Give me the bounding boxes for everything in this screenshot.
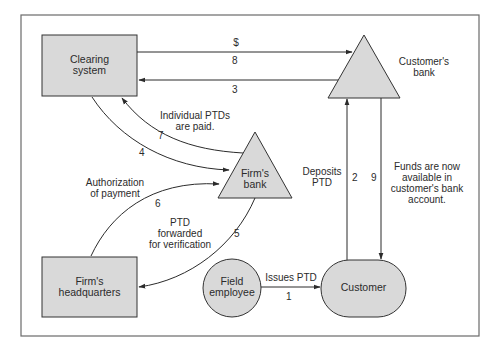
flow-7-label: Individual PTDs are paid. <box>155 110 235 132</box>
flow-9-label-line4: account. <box>384 194 470 205</box>
flow-5-label-line2: forwarded <box>145 228 215 239</box>
flow-9-step: 9 <box>371 172 377 183</box>
flow-8-label: $ <box>226 37 246 48</box>
field-employee-label: Field employee <box>202 276 262 298</box>
firms-headquarters-label: Firm's headquarters <box>42 276 137 298</box>
flow-9-label-line1: Funds are now <box>384 161 470 172</box>
flow-3-step: 3 <box>232 84 238 95</box>
customer-label: Customer <box>321 282 406 293</box>
field-employee-label-line2: employee <box>202 287 262 298</box>
flow-2-label-line1: Deposits <box>302 166 342 177</box>
ptd-flow-diagram: Clearing system Firm's headquarters Cust… <box>0 0 496 351</box>
flow-6-label-line1: Authorization <box>80 177 150 188</box>
flow-2-label: Deposits PTD <box>302 166 342 188</box>
flow-1-label: Issues PTD <box>262 272 320 283</box>
flow-7-label-line2: are paid. <box>155 121 235 132</box>
flow-6-step: 6 <box>155 198 161 209</box>
flow-5-label: PTD forwarded for verification <box>145 217 215 250</box>
flow-9-label: Funds are now available in customer's ba… <box>384 161 470 205</box>
flow-5-step: 5 <box>234 228 240 239</box>
flow-5-label-line3: for verification <box>145 239 215 250</box>
flow-8-step: 8 <box>232 55 238 66</box>
flow-2-step: 2 <box>352 172 358 183</box>
flow-1-step: 1 <box>286 291 292 302</box>
flow-6-label-line2: of payment <box>80 188 150 199</box>
flow-5-label-line1: PTD <box>145 217 215 228</box>
firms-bank-label-line2: bank <box>225 179 285 190</box>
customers-bank-label-line1: Customer's <box>384 56 464 67</box>
firms-headquarters-label-line2: headquarters <box>42 287 137 298</box>
flow-7-label-line1: Individual PTDs <box>155 110 235 121</box>
customers-bank-label-line2: bank <box>384 67 464 78</box>
clearing-system-label-line2: system <box>42 65 137 76</box>
flow-6-label: Authorization of payment <box>80 177 150 199</box>
customers-bank-label: Customer's bank <box>384 56 464 78</box>
firms-bank-label: Firm's bank <box>225 168 285 190</box>
flow-7-step: 7 <box>158 130 164 141</box>
flow-9-label-line3: customer's bank <box>384 183 470 194</box>
flow-4-step: 4 <box>139 147 145 158</box>
clearing-system-label: Clearing system <box>42 54 137 76</box>
flow-2-label-line2: PTD <box>302 177 342 188</box>
flow-9-label-line2: available in <box>384 172 470 183</box>
